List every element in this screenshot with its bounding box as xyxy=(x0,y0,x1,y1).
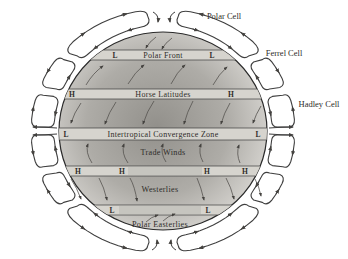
band-subpolar-low-shade xyxy=(119,206,201,214)
cell-loop xyxy=(43,58,75,89)
wind-arrow-westerlies-south xyxy=(255,179,261,196)
band-subtropical-high-shade xyxy=(128,167,202,175)
pressure-letter: L xyxy=(109,206,114,215)
pressure-letter: H xyxy=(69,90,75,99)
cell-loop-arrow xyxy=(270,110,271,116)
cell-loop-arrow xyxy=(276,68,279,73)
cell-loop-arrow xyxy=(67,181,70,186)
cell-loop-arrow xyxy=(55,147,56,153)
label-polar-easterlies: Polar Easterlies xyxy=(132,220,188,229)
north-pole-descent-arrow xyxy=(153,12,158,22)
pressure-letter: L xyxy=(63,130,68,139)
cell-loop xyxy=(32,95,58,127)
cell-loop xyxy=(268,135,294,167)
cell-loop xyxy=(268,95,294,127)
label-itcz: Intertropical Convergence Zone xyxy=(107,130,218,139)
cell-loop-arrow xyxy=(241,226,246,230)
cell-loop-arrow xyxy=(67,75,70,80)
pressure-letter: L xyxy=(205,206,210,215)
cell-loop-arrow xyxy=(55,110,56,116)
cell-loop-arrow xyxy=(32,149,33,155)
cell-loop-arrow xyxy=(227,45,232,49)
cell-loop-arrow xyxy=(276,190,279,195)
pressure-letter: H xyxy=(119,167,125,176)
pressure-letter: L xyxy=(255,130,260,139)
pressure-letter: H xyxy=(204,167,210,176)
label-polar-front: Polar Front xyxy=(143,51,183,60)
cell-loop-arrow xyxy=(292,149,293,155)
atmospheric-circulation-diagram: L L H H L L H H H H L L Polar Front Hors… xyxy=(0,0,348,259)
label-hadley-cell: Hadley Cell xyxy=(299,99,340,109)
cell-loop-arrow xyxy=(270,147,271,153)
pressure-letter: L xyxy=(112,51,117,60)
cell-loop-arrow xyxy=(80,226,85,230)
pressure-letter: H xyxy=(228,90,234,99)
north-pole-descent-arrow xyxy=(170,12,175,22)
label-ferrel-cell: Ferrel Cell xyxy=(266,48,303,58)
label-westerlies: Westerlies xyxy=(142,185,179,194)
cell-loop-arrow xyxy=(227,213,232,217)
south-pole-return-arrow xyxy=(152,240,157,250)
cell-loop-arrow xyxy=(94,213,99,217)
diagram-canvas: L L H H L L H H H H L L Polar Front Hors… xyxy=(0,0,348,259)
pressure-letter: H xyxy=(75,167,81,176)
cell-loop-arrow xyxy=(256,75,259,80)
label-horse-latitudes: Horse Latitudes xyxy=(135,90,190,99)
cell-loop-arrow xyxy=(32,107,33,113)
cell-loop-arrow xyxy=(94,45,99,49)
cell-loop-arrow xyxy=(292,107,293,113)
cell-loop-arrow xyxy=(47,190,50,195)
cell-loop-arrow xyxy=(80,33,85,37)
south-pole-return-arrow xyxy=(171,240,176,250)
cell-loop xyxy=(43,172,75,203)
cell-loop-arrow xyxy=(47,68,50,73)
pressure-letter: L xyxy=(209,51,214,60)
cell-loop xyxy=(251,58,283,89)
cell-loop xyxy=(251,172,283,203)
pressure-letter: H xyxy=(242,167,248,176)
label-polar-cell: Polar Cell xyxy=(207,11,242,21)
cell-loop-arrow xyxy=(241,33,246,37)
cell-loop xyxy=(32,135,58,167)
